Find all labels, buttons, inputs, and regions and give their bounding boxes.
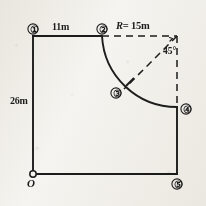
angle-45-label: 45°	[163, 47, 176, 57]
radius-symbol: R	[116, 20, 123, 31]
dimension-radius: R= 15m	[116, 21, 150, 32]
node-3-label: ③	[113, 89, 122, 99]
radius-value: = 15m	[123, 20, 150, 31]
dimension-left-26m: 26m	[10, 96, 28, 106]
node-5-label: ⑤	[174, 180, 183, 190]
node-2-label: ②	[99, 25, 108, 35]
engineering-diagram: ① ② ③ ④ ⑤ 11m 26m R= 15m 45° O	[0, 0, 206, 206]
node-1-label: ①	[30, 25, 39, 35]
dimension-top-11m: 11m	[52, 22, 69, 32]
tick-mark-node-3	[126, 78, 134, 86]
node-4-label: ④	[183, 105, 192, 115]
origin-label: O	[27, 178, 35, 189]
